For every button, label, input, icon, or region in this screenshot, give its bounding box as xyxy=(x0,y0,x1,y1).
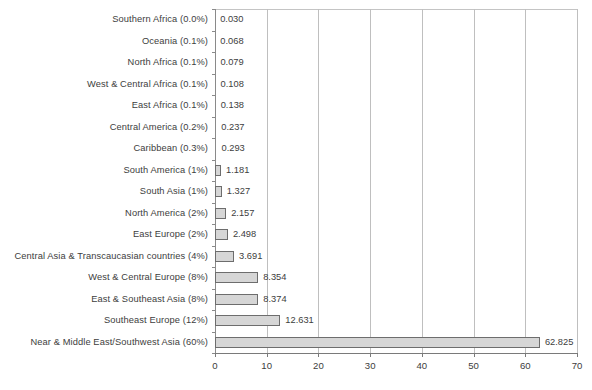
category-label: South America (1%) xyxy=(0,160,208,182)
category-label: South Asia (1%) xyxy=(0,181,208,203)
category-label: East Europe (2%) xyxy=(0,224,208,246)
category-label: Caribbean (0.3%) xyxy=(0,138,208,160)
bar-value-label: 0.293 xyxy=(222,138,245,160)
gridline-70 xyxy=(577,9,578,353)
x-axis-tick xyxy=(525,353,526,357)
bar-row: 1.181 xyxy=(215,160,577,182)
bar[interactable] xyxy=(215,315,280,326)
category-label: Central Asia & Transcaucasian countries … xyxy=(0,246,208,268)
bar-value-label: 2.498 xyxy=(233,224,256,246)
x-axis-tick xyxy=(318,353,319,357)
category-label: Central America (0.2%) xyxy=(0,117,208,139)
bar[interactable] xyxy=(215,208,226,219)
bar-row: 62.825 xyxy=(215,332,577,354)
category-label: North Africa (0.1%) xyxy=(0,52,208,74)
bar-row: 0.293 xyxy=(215,138,577,160)
bar-row: 0.138 xyxy=(215,95,577,117)
bar-row: 12.631 xyxy=(215,310,577,332)
bar-row: 3.691 xyxy=(215,246,577,268)
x-axis-tick-label: 20 xyxy=(303,360,333,372)
bar-value-label: 3.691 xyxy=(239,246,262,268)
bar[interactable] xyxy=(215,186,222,197)
category-label: Southern Africa (0.0%) xyxy=(0,9,208,31)
category-label: North America (2%) xyxy=(0,203,208,225)
bar-value-label: 1.181 xyxy=(226,160,249,182)
horizontal-bar-chart: 0.0300.0680.0790.1080.1380.2370.2931.181… xyxy=(0,0,592,390)
bar-row: 2.157 xyxy=(215,203,577,225)
category-label: Oceania (0.1%) xyxy=(0,31,208,53)
plot-area: 0.0300.0680.0790.1080.1380.2370.2931.181… xyxy=(215,9,577,353)
bar-value-label: 0.068 xyxy=(220,31,243,53)
category-label: Southeast Europe (12%) xyxy=(0,310,208,332)
bar[interactable] xyxy=(215,229,228,240)
x-axis-tick xyxy=(474,353,475,357)
bar-value-label: 1.327 xyxy=(227,181,250,203)
category-label: Near & Middle East/Southwest Asia (60%) xyxy=(0,332,208,354)
bar[interactable] xyxy=(215,165,221,176)
bar-value-label: 0.138 xyxy=(221,95,244,117)
bar-row: 8.374 xyxy=(215,289,577,311)
category-label: West & Central Europe (8%) xyxy=(0,267,208,289)
bar-value-label: 0.079 xyxy=(220,52,243,74)
bar-row: 0.108 xyxy=(215,74,577,96)
bar-row: 8.354 xyxy=(215,267,577,289)
bar-value-label: 8.374 xyxy=(263,289,286,311)
x-axis-tick-label: 10 xyxy=(252,360,282,372)
bar-value-label: 0.030 xyxy=(220,9,243,31)
x-axis-tick xyxy=(267,353,268,357)
bar[interactable] xyxy=(215,337,540,348)
category-label: West & Central Africa (0.1%) xyxy=(0,74,208,96)
x-axis-tick xyxy=(577,353,578,357)
x-axis-tick-label: 70 xyxy=(562,360,592,372)
bar-value-label: 62.825 xyxy=(545,332,573,354)
x-axis-tick xyxy=(370,353,371,357)
category-label: East Africa (0.1%) xyxy=(0,95,208,117)
bar-row: 0.079 xyxy=(215,52,577,74)
bar-row: 0.030 xyxy=(215,9,577,31)
bar-row: 2.498 xyxy=(215,224,577,246)
bar-value-label: 8.354 xyxy=(263,267,286,289)
x-axis-tick-label: 50 xyxy=(459,360,489,372)
bar[interactable] xyxy=(215,294,258,305)
x-axis-tick-label: 0 xyxy=(200,360,230,372)
x-axis-tick-label: 60 xyxy=(510,360,540,372)
bar-row: 1.327 xyxy=(215,181,577,203)
x-axis-tick xyxy=(422,353,423,357)
bar-value-label: 0.237 xyxy=(221,117,244,139)
x-axis-tick xyxy=(215,353,216,357)
bar[interactable] xyxy=(215,251,234,262)
bar-value-label: 2.157 xyxy=(231,203,254,225)
bar[interactable] xyxy=(215,272,258,283)
bar-value-label: 0.108 xyxy=(221,74,244,96)
bar-value-label: 12.631 xyxy=(285,310,313,332)
x-axis-tick-label: 30 xyxy=(355,360,385,372)
x-axis-line xyxy=(215,353,578,354)
x-axis-tick-label: 40 xyxy=(407,360,437,372)
bar-row: 0.068 xyxy=(215,31,577,53)
bar-row: 0.237 xyxy=(215,117,577,139)
category-label: East & Southeast Asia (8%) xyxy=(0,289,208,311)
